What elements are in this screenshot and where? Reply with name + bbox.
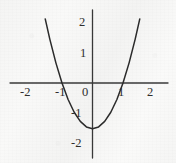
parabola-figure: -2 -1 1 2 0 2 1 -1 -2: [0, 0, 176, 163]
y-tick-label-neg2: -2: [71, 137, 81, 150]
y-tick-label-pos1: 1: [80, 47, 86, 60]
y-tick-label-pos2: 2: [79, 16, 85, 29]
y-tick-label-neg1: -1: [71, 107, 81, 120]
x-tick-label-pos1: 1: [118, 86, 124, 99]
x-tick-label-neg1: -1: [55, 86, 65, 99]
x-tick-label-pos2: 2: [147, 86, 153, 99]
plot-canvas: [0, 0, 176, 163]
origin-label: 0: [82, 86, 88, 99]
x-tick-label-neg2: -2: [20, 86, 30, 99]
axes-group: [10, 10, 168, 158]
